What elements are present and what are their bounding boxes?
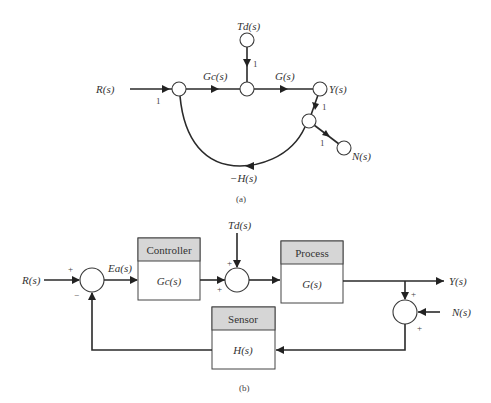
gain-y: 1 (322, 102, 327, 112)
process-header: Process (295, 247, 329, 259)
sign-sum1-top: + (68, 264, 73, 274)
arrow-icon (401, 292, 409, 300)
signal-flow-graph: R(s) 1 Gc(s) G(s) Td(s) 1 Y(s) 1 N(s) 1 … (95, 20, 371, 204)
line-to-sensor (276, 324, 405, 350)
caption-b: (b) (239, 383, 250, 393)
gain-n: 1 (320, 138, 325, 148)
label-td: Td(s) (237, 20, 261, 33)
label-r-b: R(s) (21, 274, 41, 287)
arrow-icon (418, 308, 426, 316)
summing-junction-3 (393, 300, 417, 324)
arrow-icon (72, 276, 80, 284)
arrow-icon (272, 276, 280, 284)
arrow-icon (130, 276, 138, 284)
arrow-icon (276, 346, 284, 354)
label-g: G(s) (275, 70, 295, 83)
label-y-b: Y(s) (449, 275, 467, 288)
arrow-icon (217, 276, 225, 284)
node-n (337, 141, 351, 155)
node-r (172, 82, 186, 96)
controller-header: Controller (146, 244, 192, 256)
process-tf: G(s) (302, 278, 322, 291)
controller-tf: Gc(s) (157, 275, 182, 288)
process-block: Process G(s) (281, 241, 343, 303)
diagram-canvas: R(s) 1 Gc(s) G(s) Td(s) 1 Y(s) 1 N(s) 1 … (0, 0, 491, 403)
summing-junction-1 (80, 268, 104, 292)
sign-sum3-top: + (411, 289, 416, 299)
sensor-header: Sensor (228, 313, 258, 325)
gain-td: 1 (253, 59, 258, 69)
arrow-icon (280, 85, 288, 93)
sign-sum2-top: + (227, 258, 232, 268)
node-sum (240, 82, 254, 96)
label-n-b: N(s) (451, 306, 471, 319)
label-y: Y(s) (329, 83, 347, 96)
label-feedback: −H(s) (230, 172, 257, 185)
node-junction (302, 114, 316, 128)
arrow-icon (243, 59, 251, 67)
node-y (313, 82, 327, 96)
node-td (240, 33, 254, 47)
gain-r: 1 (156, 96, 161, 106)
summing-junction-2 (225, 268, 249, 292)
sign-sum3-right: + (417, 323, 422, 333)
arrow-icon (162, 85, 170, 93)
line-feedback (92, 293, 212, 350)
caption-a: (a) (236, 194, 246, 204)
label-gc: Gc(s) (203, 70, 228, 83)
label-n: N(s) (351, 150, 371, 163)
label-td-b: Td(s) (228, 219, 252, 232)
label-ea: Ea(s) (107, 262, 132, 275)
branch-feedback (180, 96, 305, 166)
controller-block: Controller Gc(s) (138, 238, 200, 300)
arrow-icon (88, 292, 96, 300)
sign-sum2-left: + (217, 284, 222, 294)
arrow-icon (211, 85, 219, 93)
arrow-icon (245, 162, 254, 170)
arrow-icon (436, 277, 444, 285)
label-r: R(s) (95, 83, 115, 96)
sensor-tf: H(s) (232, 344, 253, 357)
block-diagram: R(s) + − Ea(s) Controller Gc(s) + Td(s) … (21, 219, 471, 393)
arrow-icon (233, 260, 241, 268)
sensor-block: Sensor H(s) (212, 307, 275, 369)
sign-sum1-bottom: − (74, 290, 79, 300)
